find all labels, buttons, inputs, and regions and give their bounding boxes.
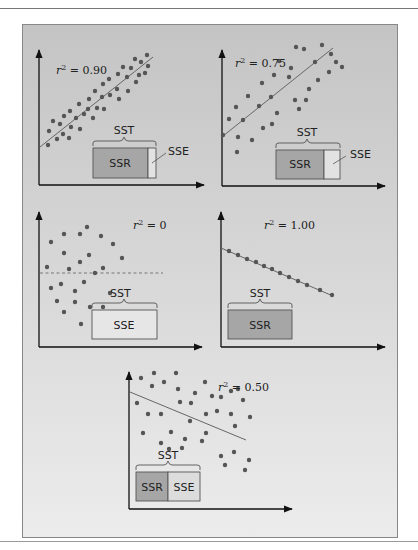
ssr-label: SSR — [249, 319, 271, 332]
r2-label: r2 = 0.90 — [56, 63, 107, 77]
ssr-label: SSR — [141, 481, 163, 494]
sse-box — [324, 150, 340, 179]
sst-brace — [93, 137, 156, 146]
ssr-label: SSR — [109, 157, 131, 170]
sst-label: SST — [158, 449, 179, 462]
ssr-label: SSR — [289, 158, 311, 171]
sst-brace — [276, 139, 340, 148]
r2-label: r2 = 0 — [133, 218, 167, 232]
r2-label: r2 = 0.50 — [218, 380, 269, 394]
sst-label: SST — [114, 124, 135, 137]
sse-label: SSE — [174, 481, 195, 494]
panel-r2-0: r2 = 0 SST SSE — [39, 212, 202, 347]
sst-label: SST — [250, 287, 271, 300]
sst-brace — [228, 299, 292, 308]
sse-label: SSE — [168, 145, 189, 158]
sse-label: SSE — [114, 319, 135, 332]
panel-r2-050: r2 = 0.50 SST SSR SSE — [129, 371, 292, 509]
panel-r2-100: r2 = 1.00 SST SSR — [221, 212, 385, 347]
sst-label: SST — [297, 126, 318, 139]
panel-r2-075: r2 = 0.75 SST SSR SSE — [221, 43, 385, 186]
r2-label: r2 = 1.00 — [264, 218, 315, 232]
data-points — [227, 249, 334, 297]
bottom-rule — [0, 541, 418, 542]
sse-label: SSE — [350, 148, 371, 161]
sst-label: SST — [110, 287, 131, 300]
r2-label: r2 = 0.75 — [235, 56, 286, 70]
r-squared-figure: r2 = 0.90 SST SSR SSE r2 = 0.75 SST — [0, 0, 418, 550]
sst-brace — [136, 461, 200, 470]
panel-r2-090: r2 = 0.90 SST SSR SSE — [39, 50, 204, 185]
